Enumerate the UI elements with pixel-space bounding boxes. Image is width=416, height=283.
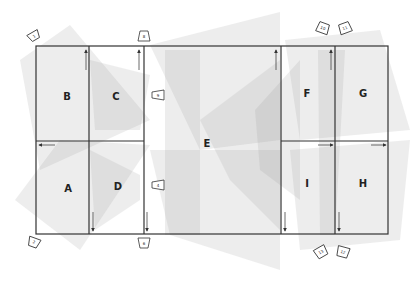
camera-marker-11: 11 <box>338 21 353 35</box>
svg-text:4: 4 <box>157 183 160 188</box>
svg-text:8: 8 <box>143 34 146 39</box>
region-label-d: D <box>114 181 122 192</box>
region-label-a: A <box>64 183 72 194</box>
camera-marker-1: 1 <box>27 30 41 43</box>
camera-marker-6: 6 <box>138 238 150 248</box>
region-label-e: E <box>204 138 211 149</box>
camera-marker-9: 9 <box>152 90 164 100</box>
camera-marker-4: 4 <box>152 180 164 190</box>
region-label-g: G <box>359 88 367 99</box>
camera-marker-2: 2 <box>27 236 41 249</box>
region-label-h: H <box>359 178 367 189</box>
region-label-i: I <box>305 178 309 189</box>
camera-marker-12: 12 <box>336 246 350 259</box>
region-label-f: F <box>304 88 311 99</box>
svg-text:6: 6 <box>143 241 146 246</box>
camera-marker-8: 8 <box>138 31 150 41</box>
camera-marker-10: 10 <box>316 21 331 35</box>
cone-3 <box>90 60 150 130</box>
region-label-b: B <box>63 91 71 102</box>
region-label-c: C <box>112 91 119 102</box>
svg-text:9: 9 <box>157 93 160 98</box>
floor-plan-diagram: B C A D E F G I H 1 8 <box>0 0 416 283</box>
